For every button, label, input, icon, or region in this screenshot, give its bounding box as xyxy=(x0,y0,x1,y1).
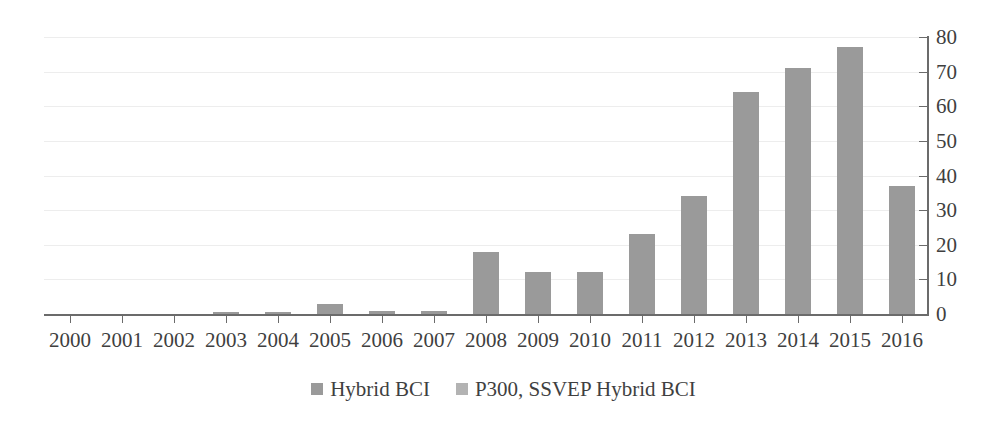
x-tick-mark-2014 xyxy=(798,315,799,323)
bar-slot xyxy=(96,37,148,314)
x-tick-label-2005: 2005 xyxy=(304,327,356,353)
y-tick-label: 50 xyxy=(936,130,957,151)
bar-slot xyxy=(512,37,564,314)
legend-label: P300, SSVEP Hybrid BCI xyxy=(475,377,696,401)
x-tick-mark-2011 xyxy=(642,315,643,323)
bar-slot xyxy=(564,37,616,314)
bar-2015[interactable] xyxy=(837,47,863,314)
bar-slot xyxy=(408,37,460,314)
x-tick-label-2013: 2013 xyxy=(720,327,772,353)
y-tick-mark xyxy=(919,176,928,177)
x-tick-mark-2012 xyxy=(694,315,695,323)
y-tick-mark xyxy=(919,37,928,38)
legend-entry-1[interactable]: P300, SSVEP Hybrid BCI xyxy=(456,377,696,401)
bar-slot xyxy=(252,37,304,314)
y-tick-mark xyxy=(919,245,928,246)
legend-entry-0[interactable]: Hybrid BCI xyxy=(311,377,430,401)
x-tick-mark-2004 xyxy=(278,315,279,323)
y-axis-tick-labels: 01020304050607080 xyxy=(936,0,996,431)
x-tick-mark-2013 xyxy=(746,315,747,323)
bar-2016[interactable] xyxy=(889,186,915,314)
x-tick-mark-2015 xyxy=(850,315,851,323)
x-tick-label-2011: 2011 xyxy=(616,327,668,353)
y-tick-label: 30 xyxy=(936,200,957,221)
bar-2011[interactable] xyxy=(629,234,655,314)
bar-2008[interactable] xyxy=(473,252,499,314)
bar-2014[interactable] xyxy=(785,68,811,314)
bar-2010[interactable] xyxy=(577,272,603,314)
plot-area xyxy=(44,37,928,314)
x-tick-label-2014: 2014 xyxy=(772,327,824,353)
legend-swatch-icon xyxy=(456,383,468,395)
legend-swatch-icon xyxy=(311,383,323,395)
x-tick-label-2007: 2007 xyxy=(408,327,460,353)
bar-slot xyxy=(616,37,668,314)
y-tick-label: 20 xyxy=(936,234,957,255)
x-tick-mark-2002 xyxy=(174,315,175,323)
chart-legend: Hybrid BCIP300, SSVEP Hybrid BCI xyxy=(0,377,1007,401)
y-tick-mark xyxy=(919,141,928,142)
x-tick-label-2001: 2001 xyxy=(96,327,148,353)
bar-slot xyxy=(668,37,720,314)
y-tick-label: 80 xyxy=(936,27,957,48)
bar-slot xyxy=(304,37,356,314)
bar-series-hybrid-bci xyxy=(44,37,928,314)
y-tick-mark xyxy=(919,210,928,211)
bar-slot xyxy=(148,37,200,314)
bar-2009[interactable] xyxy=(525,272,551,314)
bar-2005[interactable] xyxy=(317,304,343,314)
y-tick-label: 70 xyxy=(936,61,957,82)
x-tick-mark-2009 xyxy=(538,315,539,323)
y-tick-mark xyxy=(919,314,928,315)
bar-slot xyxy=(772,37,824,314)
y-tick-label: 40 xyxy=(936,165,957,186)
legend-label: Hybrid BCI xyxy=(330,377,430,401)
x-tick-mark-2000 xyxy=(70,315,71,323)
bar-2012[interactable] xyxy=(681,196,707,314)
x-tick-mark-2008 xyxy=(486,315,487,323)
x-tick-mark-2010 xyxy=(590,315,591,323)
x-tick-label-2002: 2002 xyxy=(148,327,200,353)
x-tick-mark-2006 xyxy=(382,315,383,323)
y-tick-label: 60 xyxy=(936,96,957,117)
y-tick-label: 0 xyxy=(936,304,947,325)
x-tick-label-2004: 2004 xyxy=(252,327,304,353)
bar-slot xyxy=(824,37,876,314)
x-tick-mark-2007 xyxy=(434,315,435,323)
x-tick-label-2012: 2012 xyxy=(668,327,720,353)
x-tick-label-2003: 2003 xyxy=(200,327,252,353)
bar-chart: 01020304050607080 2000200120022003200420… xyxy=(0,0,1007,431)
y-tick-mark xyxy=(919,279,928,280)
x-tick-label-2000: 2000 xyxy=(44,327,96,353)
x-tick-mark-2001 xyxy=(122,315,123,323)
x-axis-tick-labels: 2000200120022003200420052006200720082009… xyxy=(44,327,928,353)
bar-slot xyxy=(460,37,512,314)
bar-slot xyxy=(356,37,408,314)
x-tick-label-2015: 2015 xyxy=(824,327,876,353)
bar-slot xyxy=(200,37,252,314)
bar-slot xyxy=(720,37,772,314)
x-tick-mark-2005 xyxy=(330,315,331,323)
bar-2013[interactable] xyxy=(733,92,759,314)
x-tick-label-2008: 2008 xyxy=(460,327,512,353)
x-tick-label-2010: 2010 xyxy=(564,327,616,353)
x-tick-mark-2003 xyxy=(226,315,227,323)
x-tick-label-2009: 2009 xyxy=(512,327,564,353)
x-tick-mark-2016 xyxy=(902,315,903,323)
y-tick-mark xyxy=(919,72,928,73)
y-tick-mark xyxy=(919,106,928,107)
x-tick-label-2006: 2006 xyxy=(356,327,408,353)
bar-slot xyxy=(44,37,96,314)
y-tick-label: 10 xyxy=(936,269,957,290)
x-tick-label-2016: 2016 xyxy=(876,327,928,353)
